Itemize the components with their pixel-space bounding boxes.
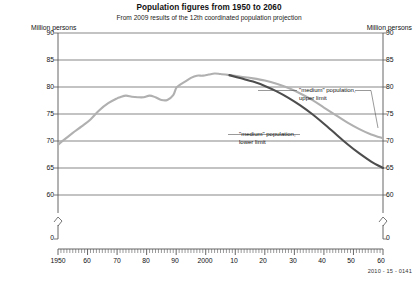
y-axis-left [54,33,62,239]
plot-area [0,0,418,287]
x-axis-minor-ticks [61,249,380,253]
series-upper-limit-line [229,75,383,138]
annotation-lower-limit-line2: lower limit [239,139,266,145]
annotation-lower-limit: "medium" population, lower limit [239,130,296,147]
y-axis-right-ticks [383,33,387,239]
annotation-upper-limit: "medium" population, upper limit [299,86,356,103]
source-code: 2010 - 15 - 0141 [368,268,412,274]
series-historical-line [58,73,229,144]
annotation-lower-limit-line1: "medium" population, [239,131,296,137]
y-axis-right [379,33,387,239]
annotation-upper-limit-line2: upper limit [299,95,327,101]
annotation-upper-limit-line1: "medium" population, [299,87,356,93]
population-chart: Population figures from 1950 to 2060 Fro… [0,0,418,287]
y-axis-left-ticks [54,33,58,239]
